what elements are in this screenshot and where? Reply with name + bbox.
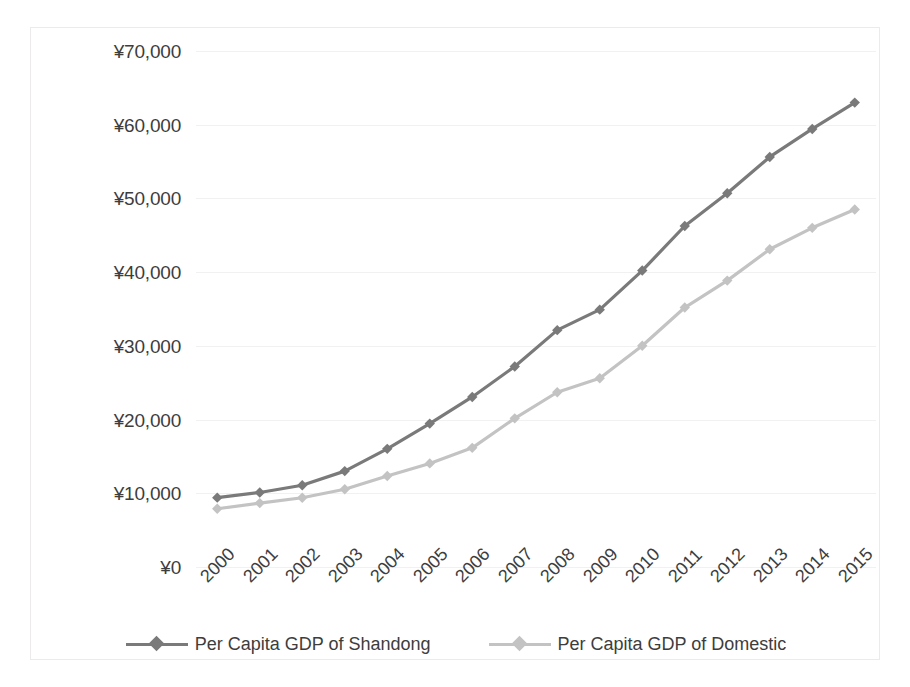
legend-marker-icon — [126, 637, 188, 651]
legend-item[interactable]: Per Capita GDP of Domestic — [489, 634, 787, 655]
plot-area — [196, 51, 876, 567]
data-point-marker — [255, 487, 265, 497]
series-group — [212, 204, 860, 514]
data-point-marker — [297, 493, 307, 503]
data-point-marker — [212, 492, 222, 502]
y-axis: ¥0¥10,000¥20,000¥30,000¥40,000¥50,000¥60… — [61, 28, 181, 661]
y-axis-tick-label: ¥70,000 — [114, 42, 181, 61]
y-axis-tick-label: ¥50,000 — [114, 189, 181, 208]
legend-diamond-icon — [148, 636, 164, 652]
plot-wrapper: ¥0¥10,000¥20,000¥30,000¥40,000¥50,000¥60… — [31, 28, 881, 661]
data-point-marker — [340, 484, 350, 494]
chart-container: ¥0¥10,000¥20,000¥30,000¥40,000¥50,000¥60… — [30, 27, 880, 660]
series-group — [212, 97, 860, 502]
legend-label: Per Capita GDP of Domestic — [558, 634, 787, 655]
series-lines — [196, 51, 876, 567]
data-point-marker — [807, 223, 817, 233]
data-point-marker — [425, 458, 435, 468]
legend-marker-icon — [489, 637, 551, 651]
y-axis-tick-label: ¥0 — [160, 558, 181, 577]
y-axis-tick-label: ¥60,000 — [114, 115, 181, 134]
legend-item[interactable]: Per Capita GDP of Shandong — [126, 634, 431, 655]
chart-legend: Per Capita GDP of ShandongPer Capita GDP… — [31, 629, 881, 659]
data-point-marker — [297, 480, 307, 490]
series-line — [217, 209, 855, 508]
data-point-marker — [850, 204, 860, 214]
data-point-marker — [382, 471, 392, 481]
series-line — [217, 103, 855, 498]
data-point-marker — [255, 498, 265, 508]
y-axis-tick-label: ¥40,000 — [114, 263, 181, 282]
y-axis-tick-label: ¥20,000 — [114, 410, 181, 429]
legend-diamond-icon — [511, 636, 527, 652]
y-axis-tick-label: ¥30,000 — [114, 336, 181, 355]
y-axis-tick-label: ¥10,000 — [114, 484, 181, 503]
data-point-marker — [212, 504, 222, 514]
legend-label: Per Capita GDP of Shandong — [195, 634, 431, 655]
